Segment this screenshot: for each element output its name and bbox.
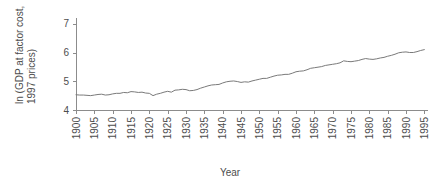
y-axis-title-line2: 1997 prices): [26, 49, 37, 104]
x-tick-label: 1955: [272, 117, 283, 140]
x-tick-label: 1980: [364, 117, 375, 140]
x-tick-label: 1935: [199, 117, 210, 140]
y-axis-ticks: 4567: [63, 18, 76, 115]
y-tick-label: 4: [63, 105, 69, 116]
x-tick-label: 1940: [217, 117, 228, 140]
x-tick-label: 1960: [291, 117, 302, 140]
x-tick-label: 1900: [71, 117, 82, 140]
x-tick-label: 1965: [309, 117, 320, 140]
x-tick-label: 1995: [419, 117, 430, 140]
gdp-line-chart: ln (GDP at factor cost, 1997 prices) 456…: [0, 0, 448, 183]
y-axis-title: ln (GDP at factor cost, 1997 prices): [14, 6, 37, 104]
x-tick-label: 1915: [126, 117, 137, 140]
x-tick-label: 1945: [236, 117, 247, 140]
chart-figure: ln (GDP at factor cost, 1997 prices) 456…: [0, 0, 448, 183]
series-line-gdp: [76, 50, 424, 96]
x-tick-label: 1925: [162, 117, 173, 140]
x-tick-label: 1910: [107, 117, 118, 140]
x-tick-label: 1930: [181, 117, 192, 140]
x-axis-ticks: 1900190519101915192019251930193519401945…: [71, 111, 430, 139]
x-axis-title: Year: [220, 167, 241, 178]
x-tick-label: 1970: [327, 117, 338, 140]
y-tick-label: 7: [63, 18, 69, 29]
axis-lines: [77, 18, 429, 111]
x-tick-label: 1975: [346, 117, 357, 140]
y-tick-label: 5: [63, 76, 69, 87]
x-tick-label: 1905: [89, 117, 100, 140]
y-tick-label: 6: [63, 47, 69, 58]
y-axis-title-line1: ln (GDP at factor cost,: [14, 6, 25, 104]
x-tick-label: 1920: [144, 117, 155, 140]
x-tick-label: 1990: [401, 117, 412, 140]
x-tick-label: 1950: [254, 117, 265, 140]
x-tick-label: 1985: [382, 117, 393, 140]
